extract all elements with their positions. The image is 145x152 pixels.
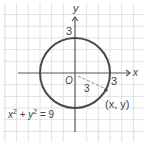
point-label: (x, y) bbox=[105, 98, 129, 110]
y-axis-label: y bbox=[72, 2, 80, 14]
origin-label: O bbox=[65, 75, 73, 86]
x-tick-label: 3 bbox=[111, 75, 117, 87]
radius-line bbox=[78, 76, 106, 89]
point-marker bbox=[104, 88, 108, 92]
coordinate-plane: y x 3 3 O 3 (x, y) x2 + y2 = 9 bbox=[0, 0, 145, 152]
y-tick-label: 3 bbox=[66, 25, 72, 37]
radius-label: 3 bbox=[84, 83, 90, 94]
circle-equation: x2 + y2 = 9 bbox=[7, 108, 55, 120]
x-axis-label: x bbox=[132, 67, 139, 78]
y-axis bbox=[72, 17, 78, 132]
